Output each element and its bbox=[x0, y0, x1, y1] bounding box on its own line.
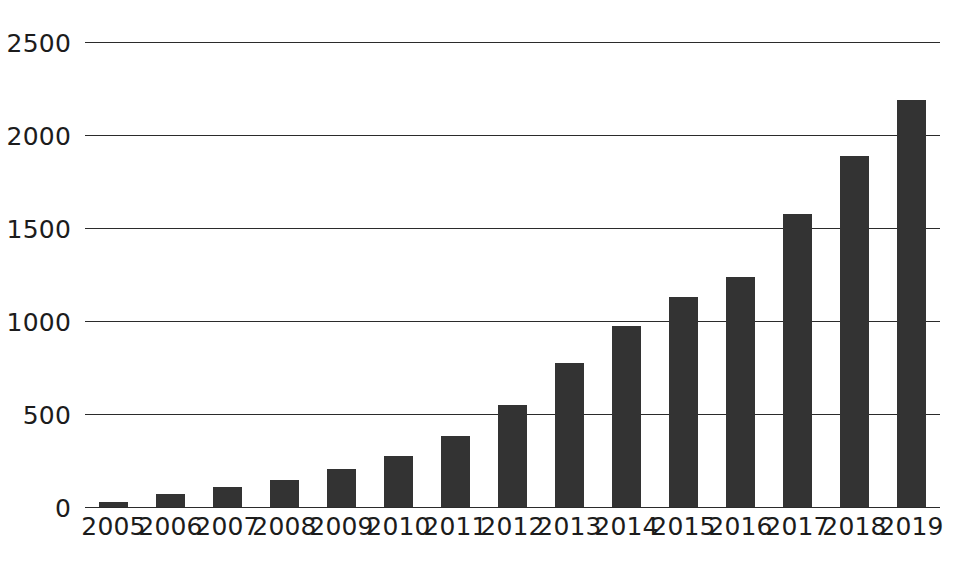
x-axis-tick-label: 2009 bbox=[309, 512, 373, 541]
bar-2015[interactable] bbox=[669, 297, 698, 507]
x-axis-tick-label: 2015 bbox=[651, 512, 715, 541]
bar-2017[interactable] bbox=[783, 214, 812, 507]
bar-2005[interactable] bbox=[99, 502, 128, 507]
y-axis-tick-label: 1000 bbox=[7, 308, 71, 337]
x-axis-tick-label: 2005 bbox=[81, 512, 145, 541]
bar-2009[interactable] bbox=[327, 469, 356, 508]
x-axis-tick-label: 2014 bbox=[594, 512, 658, 541]
x-axis-tick-label: 2013 bbox=[537, 512, 601, 541]
x-axis-tick-label: 2007 bbox=[195, 512, 259, 541]
bar-2008[interactable] bbox=[270, 480, 299, 507]
x-axis-tick-label: 2011 bbox=[423, 512, 487, 541]
x-axis-tick-label: 2016 bbox=[708, 512, 772, 541]
bar-2014[interactable] bbox=[612, 326, 641, 507]
bar-2006[interactable] bbox=[156, 494, 185, 507]
y-axis-tick-label: 2000 bbox=[7, 122, 71, 151]
x-axis-tick-label: 2010 bbox=[366, 512, 430, 541]
x-axis-tick-label: 2008 bbox=[252, 512, 316, 541]
x-axis-tick-label: 2006 bbox=[138, 512, 202, 541]
bar-2018[interactable] bbox=[840, 156, 869, 507]
bar-chart: 05001000150020002500 2005200620072008200… bbox=[0, 0, 966, 566]
y-axis-tick-label: 2500 bbox=[7, 29, 71, 58]
bar-2019[interactable] bbox=[897, 100, 926, 507]
x-axis-tick-label: 2018 bbox=[822, 512, 886, 541]
bar-2013[interactable] bbox=[555, 363, 584, 507]
y-axis-tick-label: 1500 bbox=[7, 215, 71, 244]
x-axis-tick-label: 2019 bbox=[879, 512, 943, 541]
bar-2016[interactable] bbox=[726, 277, 755, 507]
x-axis-tick-labels: 2005200620072008200920102011201220132014… bbox=[85, 512, 940, 552]
y-axis-tick-label: 0 bbox=[55, 494, 71, 523]
x-axis-tick-label: 2017 bbox=[765, 512, 829, 541]
bar-2011[interactable] bbox=[441, 436, 470, 507]
bar-2007[interactable] bbox=[213, 487, 242, 507]
bar-2012[interactable] bbox=[498, 405, 527, 507]
y-axis-tick-label: 500 bbox=[23, 401, 71, 430]
bars-group bbox=[85, 42, 940, 507]
gridline-0: 0 bbox=[85, 507, 940, 508]
plot-area: 05001000150020002500 bbox=[85, 42, 940, 507]
bar-2010[interactable] bbox=[384, 456, 413, 507]
x-axis-tick-label: 2012 bbox=[480, 512, 544, 541]
